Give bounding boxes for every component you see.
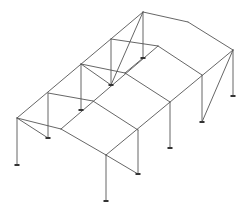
structural-frame-diagram xyxy=(0,0,250,211)
frame-member xyxy=(17,118,61,129)
frame-member xyxy=(17,12,143,118)
base-plate-icon xyxy=(109,84,114,86)
base-plate-icon xyxy=(168,147,173,149)
frame-member xyxy=(17,118,48,138)
frame-member xyxy=(106,155,138,174)
frame-members xyxy=(17,12,233,201)
frame-member xyxy=(111,39,158,46)
base-plate-icon xyxy=(200,121,205,123)
frame-member xyxy=(61,129,106,155)
frame-member xyxy=(93,101,138,130)
frame-member xyxy=(158,46,202,75)
base-plate-icon xyxy=(15,164,20,166)
frame-member xyxy=(106,50,233,155)
base-plate-icon xyxy=(79,109,84,111)
base-plate-icon xyxy=(141,57,146,59)
base-plate-icon xyxy=(46,137,51,139)
frame-member xyxy=(202,50,233,122)
frame-member xyxy=(125,73,170,102)
frame-member xyxy=(48,93,93,101)
base-plate-icon xyxy=(136,173,141,175)
base-plate-icon xyxy=(231,95,236,97)
frame-member xyxy=(143,12,188,22)
frame-member xyxy=(125,58,143,73)
base-plate-icon xyxy=(104,200,109,202)
frame-member xyxy=(188,22,233,50)
